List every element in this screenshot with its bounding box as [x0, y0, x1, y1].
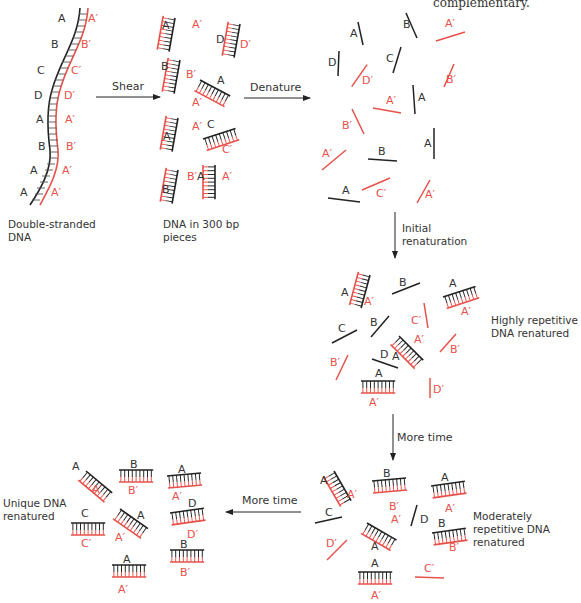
denature-label: Denature	[250, 81, 301, 94]
header-fragment: complementary.	[433, 0, 530, 10]
strand-label: C	[37, 64, 45, 77]
caption-highly-repetitive: Highly repetitive DNA renatured	[491, 314, 581, 340]
complement-label: A′	[51, 186, 61, 199]
strand-label: D	[34, 89, 42, 102]
complement-label: A′	[88, 12, 98, 25]
caption-unique: Unique DNA renatured	[3, 497, 73, 523]
complement-label: B′	[66, 140, 76, 153]
double-stranded-helix	[30, 8, 88, 205]
strand-label: B	[51, 38, 59, 51]
complement-label: C′	[71, 64, 81, 77]
strand-label: A	[30, 164, 38, 177]
strand-label: A	[58, 12, 66, 25]
denatured-strands	[322, 13, 465, 203]
complement-label: B′	[81, 38, 91, 51]
highly-repetitive-pieces	[332, 272, 479, 398]
strand-label: A	[20, 186, 28, 199]
complement-label: A′	[65, 113, 75, 126]
strand-label: B	[38, 140, 46, 153]
more-time-label-1: More time	[397, 431, 453, 444]
shear-label: Shear	[112, 80, 144, 93]
caption-double-stranded: Double-stranded DNA	[8, 218, 103, 244]
complement-label: A′	[62, 164, 72, 177]
complement-label: D′	[64, 89, 75, 102]
caption-moderately-repetitive: Moderately repetitive DNA renatured	[473, 510, 581, 549]
dna-renaturation-diagram: complementary. A B C D A B A A A′ B′ C′ …	[0, 0, 581, 603]
caption-pieces: DNA in 300 bp pieces	[163, 218, 258, 244]
strand-label: A	[36, 113, 44, 126]
initial-renaturation-label: Initial renaturation	[402, 222, 462, 248]
more-time-label-2: More time	[242, 494, 298, 507]
